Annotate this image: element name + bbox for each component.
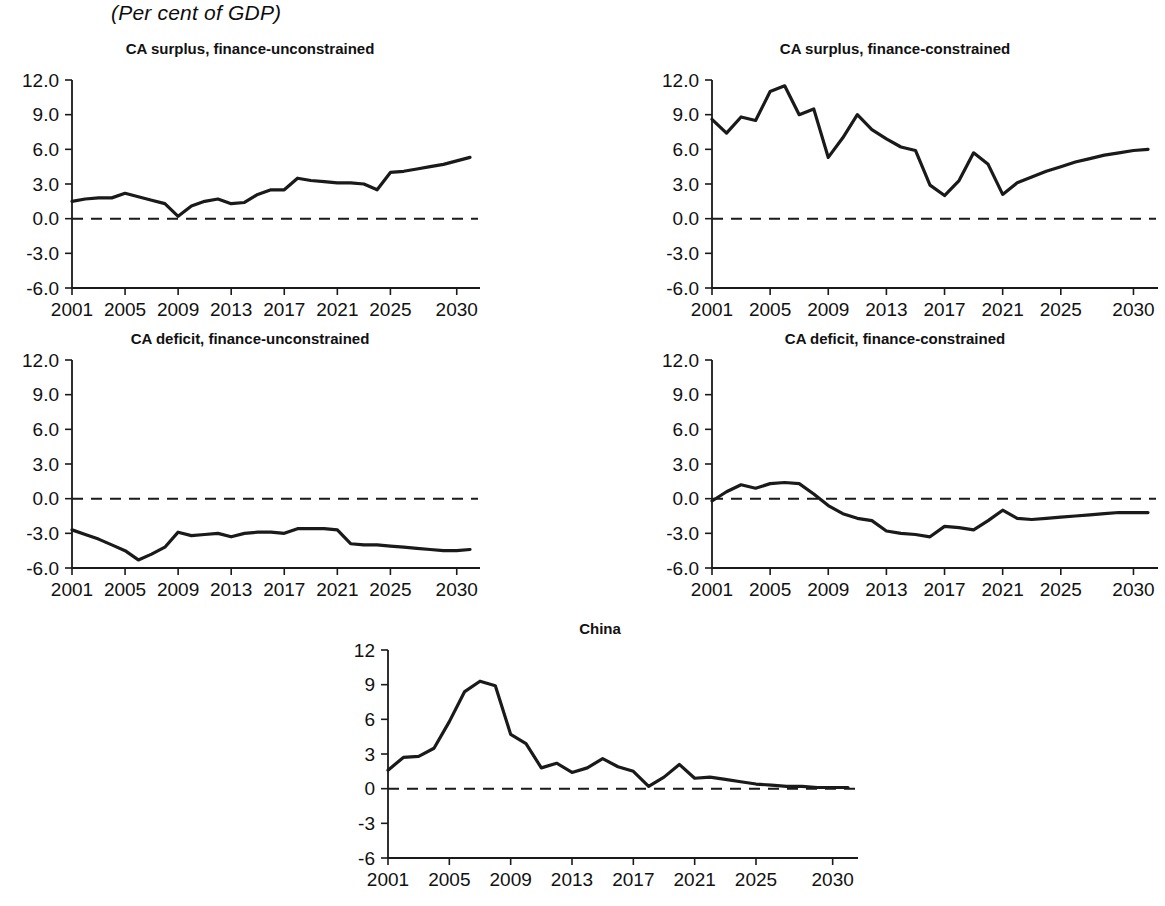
y-axis-tick-label: -3.0 xyxy=(666,243,699,264)
y-axis-tick-label: 3.0 xyxy=(673,454,699,475)
y-axis-tick-label: -6.0 xyxy=(26,278,59,299)
y-axis-tick-label: 9.0 xyxy=(673,104,699,125)
plot-axes xyxy=(712,360,1158,568)
x-axis-tick-label: 2009 xyxy=(807,579,849,600)
x-axis-tick-label: 2017 xyxy=(612,869,654,890)
x-axis-tick-label: 2005 xyxy=(104,299,146,320)
y-axis-tick-label: -6.0 xyxy=(666,558,699,579)
y-axis-tick-label: 9.0 xyxy=(33,384,59,405)
y-axis-tick-label: 0.0 xyxy=(673,208,699,229)
chart-ca-deficit-finance-unconstrained: 12.09.06.03.00.0-3.0-6.02001200520092013… xyxy=(0,330,500,610)
x-axis-tick-label: 2021 xyxy=(316,579,358,600)
x-axis-tick-label: 2025 xyxy=(369,299,411,320)
x-axis-tick-label: 2005 xyxy=(428,869,470,890)
data-series-line xyxy=(72,529,470,560)
y-axis-tick-label: 3.0 xyxy=(33,174,59,195)
x-axis-tick-label: 2001 xyxy=(367,869,409,890)
panel-ca-surplus-finance-unconstrained: CA surplus, finance-unconstrained 12.09.… xyxy=(0,40,500,330)
x-axis-tick-label: 2001 xyxy=(691,579,733,600)
y-axis-tick-label: 9 xyxy=(364,674,375,695)
x-axis-tick-label: 2001 xyxy=(51,299,93,320)
y-axis-tick-label: 3.0 xyxy=(33,454,59,475)
x-axis-tick-label: 2013 xyxy=(865,579,907,600)
y-axis-tick-label: 12.0 xyxy=(22,350,59,371)
plot-axes xyxy=(72,360,480,568)
y-axis-tick-label: -6.0 xyxy=(666,278,699,299)
x-axis-tick-label: 2017 xyxy=(263,299,305,320)
y-axis-tick-label: 0.0 xyxy=(33,208,59,229)
data-series-line xyxy=(712,482,1148,536)
x-axis-tick-label: 2009 xyxy=(807,299,849,320)
x-axis-tick-label: 2030 xyxy=(812,869,854,890)
y-axis-tick-label: 12 xyxy=(354,640,375,661)
chart-china: 129630-3-6200120052009201320172021202520… xyxy=(330,620,870,906)
data-series-line xyxy=(388,681,848,787)
x-axis-tick-label: 2013 xyxy=(210,579,252,600)
y-axis-tick-label: 12.0 xyxy=(22,70,59,91)
y-axis-tick-label: 6.0 xyxy=(673,139,699,160)
panel-china: China 129630-3-6200120052009201320172021… xyxy=(330,620,870,906)
page-subtitle: (Per cent of GDP) xyxy=(111,1,281,25)
x-axis-tick-label: 2017 xyxy=(263,579,305,600)
x-axis-tick-label: 2013 xyxy=(210,299,252,320)
x-axis-tick-label: 2009 xyxy=(490,869,532,890)
x-axis-tick-label: 2013 xyxy=(865,299,907,320)
y-axis-tick-label: 12.0 xyxy=(662,350,699,371)
y-axis-tick-label: 6.0 xyxy=(673,419,699,440)
y-axis-tick-label: -3.0 xyxy=(26,523,59,544)
y-axis-tick-label: 6.0 xyxy=(33,419,59,440)
y-axis-tick-label: 3.0 xyxy=(673,174,699,195)
panel-ca-surplus-finance-constrained: CA surplus, finance-constrained 12.09.06… xyxy=(640,40,1150,330)
chart-ca-surplus-finance-unconstrained: 12.09.06.03.00.0-3.0-6.02001200520092013… xyxy=(0,40,500,330)
x-axis-tick-label: 2005 xyxy=(749,299,791,320)
chart-ca-surplus-finance-constrained: 12.09.06.03.00.0-3.0-6.02001200520092013… xyxy=(640,40,1150,330)
x-axis-tick-label: 2013 xyxy=(551,869,593,890)
plot-axes xyxy=(712,80,1158,288)
x-axis-tick-label: 2025 xyxy=(735,869,777,890)
x-axis-tick-label: 2001 xyxy=(51,579,93,600)
x-axis-tick-label: 2017 xyxy=(923,579,965,600)
y-axis-tick-label: 9.0 xyxy=(673,384,699,405)
x-axis-tick-label: 2009 xyxy=(157,579,199,600)
x-axis-tick-label: 2030 xyxy=(1112,299,1154,320)
y-axis-tick-label: 0 xyxy=(364,778,375,799)
x-axis-tick-label: 2025 xyxy=(369,579,411,600)
panel-ca-deficit-finance-unconstrained: CA deficit, finance-unconstrained 12.09.… xyxy=(0,330,500,610)
x-axis-tick-label: 2005 xyxy=(749,579,791,600)
y-axis-tick-label: 6 xyxy=(364,709,375,730)
data-series-line xyxy=(712,86,1148,196)
y-axis-tick-label: -3.0 xyxy=(26,243,59,264)
x-axis-tick-label: 2025 xyxy=(1040,299,1082,320)
plot-axes xyxy=(72,80,480,288)
panel-ca-deficit-finance-constrained: CA deficit, finance-constrained 12.09.06… xyxy=(640,330,1150,610)
x-axis-tick-label: 2025 xyxy=(1040,579,1082,600)
x-axis-tick-label: 2030 xyxy=(1112,579,1154,600)
plot-axes xyxy=(388,650,858,858)
y-axis-tick-label: 0.0 xyxy=(673,488,699,509)
x-axis-tick-label: 2017 xyxy=(923,299,965,320)
x-axis-tick-label: 2009 xyxy=(157,299,199,320)
y-axis-tick-label: 3 xyxy=(364,744,375,765)
x-axis-tick-label: 2030 xyxy=(436,299,478,320)
x-axis-tick-label: 2021 xyxy=(674,869,716,890)
x-axis-tick-label: 2005 xyxy=(104,579,146,600)
y-axis-tick-label: 9.0 xyxy=(33,104,59,125)
y-axis-tick-label: 6.0 xyxy=(33,139,59,160)
x-axis-tick-label: 2021 xyxy=(316,299,358,320)
y-axis-tick-label: -6 xyxy=(358,848,375,869)
data-series-line xyxy=(72,157,470,216)
y-axis-tick-label: -6.0 xyxy=(26,558,59,579)
chart-ca-deficit-finance-constrained: 12.09.06.03.00.0-3.0-6.02001200520092013… xyxy=(640,330,1150,610)
y-axis-tick-label: -3 xyxy=(358,813,375,834)
x-axis-tick-label: 2001 xyxy=(691,299,733,320)
x-axis-tick-label: 2021 xyxy=(982,299,1024,320)
y-axis-tick-label: 0.0 xyxy=(33,488,59,509)
x-axis-tick-label: 2030 xyxy=(436,579,478,600)
x-axis-tick-label: 2021 xyxy=(982,579,1024,600)
y-axis-tick-label: -3.0 xyxy=(666,523,699,544)
y-axis-tick-label: 12.0 xyxy=(662,70,699,91)
